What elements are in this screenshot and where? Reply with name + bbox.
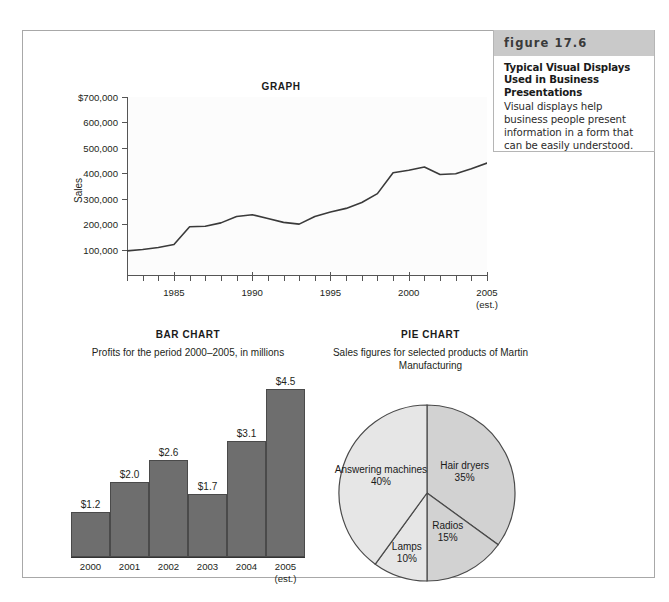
line-graph-x-tick-label: 2000 xyxy=(398,287,419,298)
line-graph-x-tick-minor xyxy=(237,276,238,281)
bar-chart-bar xyxy=(110,482,149,557)
line-graph: GRAPH Sales $700,000600,000500,000400,00… xyxy=(61,81,501,321)
line-graph-x-tick-major xyxy=(487,272,488,281)
bar-chart-column: $1.72003 xyxy=(188,389,227,557)
line-graph-x-tick-label: 1985 xyxy=(163,287,184,298)
line-graph-y-tick-label: 600,000 xyxy=(48,117,127,128)
bar-chart-column: $3.12004 xyxy=(227,389,266,557)
line-graph-y-tick-label: 300,000 xyxy=(48,193,127,204)
bar-chart-value-label: $2.0 xyxy=(110,469,149,480)
figure-caption-body: Typical Visual Displays Used in Business… xyxy=(494,56,654,152)
bar-chart-category-label: 2001 xyxy=(110,561,149,573)
line-graph-x-tick-minor xyxy=(471,276,472,281)
line-graph-x-tick-minor xyxy=(268,276,269,281)
line-graph-x-tick-minor xyxy=(205,276,206,281)
pie-chart-title: PIE CHART xyxy=(323,329,538,340)
line-graph-x-tick-minor xyxy=(143,276,144,281)
line-graph-x-tick-minor xyxy=(424,276,425,281)
pie-chart-subtitle: Sales figures for selected products of M… xyxy=(323,346,538,372)
bar-chart-category-label: 2004 xyxy=(227,561,266,573)
pie-chart: PIE CHART Sales figures for selected pro… xyxy=(323,329,538,579)
line-graph-x-tick-minor xyxy=(456,276,457,281)
bar-chart-column: $2.02001 xyxy=(110,389,149,557)
line-graph-x-tick-minor xyxy=(346,276,347,281)
line-graph-y-tick-label: 200,000 xyxy=(48,219,127,230)
bar-chart-bar xyxy=(266,389,305,557)
pie-slice-name: Radios xyxy=(393,520,503,532)
bar-chart-bar xyxy=(71,512,110,557)
line-graph-y-tick-label: 400,000 xyxy=(48,168,127,179)
pie-slice-percent: 10% xyxy=(352,553,462,565)
bar-chart-value-label: $3.1 xyxy=(227,428,266,439)
pie-slice-label: Answering machines40% xyxy=(326,464,436,489)
line-graph-x-tick-minor xyxy=(284,276,285,281)
pie-slice-name: Answering machines xyxy=(326,464,436,476)
line-graph-x-tick-minor xyxy=(362,276,363,281)
bar-chart-title: BAR CHART xyxy=(53,329,323,340)
bar-chart-value-label: $4.5 xyxy=(266,376,305,387)
line-graph-x-tick-minor xyxy=(127,276,128,281)
bar-chart-value-label: $1.2 xyxy=(71,499,110,510)
line-graph-y-tick-label: 500,000 xyxy=(48,142,127,153)
pie-slice-label: Lamps10% xyxy=(352,541,462,566)
line-graph-x-tick-minor xyxy=(190,276,191,281)
line-graph-y-tick-label: $700,000 xyxy=(48,92,127,103)
line-graph-x-tick-label: 1990 xyxy=(242,287,263,298)
pie-slice-percent: 40% xyxy=(326,476,436,488)
figure-caption-text: Visual displays help business people pre… xyxy=(504,101,645,152)
bar-chart-subtitle: Profits for the period 2000–2005, in mil… xyxy=(53,346,323,359)
line-graph-x-tick-minor xyxy=(299,276,300,281)
bar-chart-bar xyxy=(188,494,227,557)
bar-chart-category-note: (est.) xyxy=(266,573,305,585)
line-graph-y-tick-label: 100,000 xyxy=(48,244,127,255)
figure-caption-header: figure 17.6 xyxy=(494,30,654,56)
bar-chart-column: $4.52005(est.) xyxy=(266,389,305,557)
bar-chart-category-label: 2000 xyxy=(71,561,110,573)
bar-chart-column: $2.62002 xyxy=(149,389,188,557)
figure-caption-panel: figure 17.6 Typical Visual Displays Used… xyxy=(493,30,655,152)
line-graph-x-tick-minor xyxy=(221,276,222,281)
bar-chart-baseline xyxy=(71,557,305,558)
bar-chart-category-label: 2003 xyxy=(188,561,227,573)
bar-chart: BAR CHART Profits for the period 2000–20… xyxy=(53,329,323,579)
pie-slice-name: Lamps xyxy=(352,541,462,553)
figure-caption-title: Typical Visual Displays Used in Business… xyxy=(504,62,645,99)
line-graph-x-tick-minor xyxy=(440,276,441,281)
line-graph-x-tick-minor xyxy=(377,276,378,281)
line-graph-title: GRAPH xyxy=(61,81,501,92)
line-graph-x-tick-minor xyxy=(158,276,159,281)
bar-chart-category-label: 2002 xyxy=(149,561,188,573)
line-graph-x-tick-label: 1995 xyxy=(320,287,341,298)
figure-number-label: figure 17.6 xyxy=(504,36,587,50)
bar-chart-value-label: $1.7 xyxy=(188,481,227,492)
line-graph-x-tick-minor xyxy=(315,276,316,281)
line-graph-x-tick-minor xyxy=(393,276,394,281)
bar-chart-category-label: 2005(est.) xyxy=(266,561,305,585)
bar-chart-bar xyxy=(149,460,188,557)
line-graph-polyline xyxy=(127,163,487,251)
line-graph-series xyxy=(127,97,487,275)
line-graph-x-tick-label: 2005 xyxy=(476,287,497,298)
bar-chart-bar xyxy=(227,441,266,557)
line-graph-x-tick-note: (est.) xyxy=(476,299,498,310)
line-graph-x-axis xyxy=(127,275,487,276)
bar-chart-plot-area: $1.22000$2.02001$2.62002$1.72003$3.12004… xyxy=(71,389,305,557)
bar-chart-value-label: $2.6 xyxy=(149,447,188,458)
line-graph-plot-area: $700,000600,000500,000400,000300,000200,… xyxy=(127,97,487,275)
bar-chart-column: $1.22000 xyxy=(71,389,110,557)
